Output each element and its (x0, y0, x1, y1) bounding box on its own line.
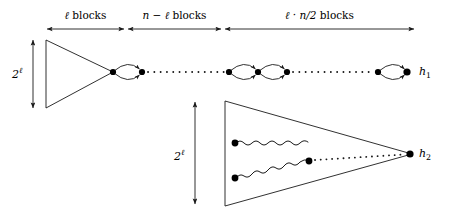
axis-segment-2-word: blocks (172, 9, 206, 21)
lower-triangle-apex-node-h2 (406, 150, 413, 157)
height-lower-label: 2ℓ (174, 149, 184, 162)
height-lower-base: 2 (174, 150, 181, 163)
chain-node (375, 69, 381, 75)
height-upper-base: 2 (12, 68, 19, 81)
axis-segment-1-word: blocks (72, 9, 106, 21)
figure-canvas: ℓ blocks n − ℓ blocks ℓ · n/2 blocks 2ℓ … (0, 0, 451, 224)
upper-triangle-shape (46, 40, 113, 108)
upper-triangle-group (46, 40, 113, 108)
axis-segment-2-label: n − ℓ blocks (127, 10, 222, 21)
wavy-path-nodes (232, 140, 414, 182)
axis-segment-2-var: n − ℓ (143, 9, 170, 21)
chain-node (284, 69, 290, 75)
wavy-source-node-top (232, 140, 239, 147)
wavy-path-bottom (236, 160, 308, 178)
bigon-arc-lower-3 (259, 73, 285, 80)
output-h1-label: h1 (419, 66, 431, 80)
chain-node-h1 (403, 68, 410, 75)
bigon-arc-lower-4 (379, 73, 405, 80)
output-h2-subscript: 2 (426, 153, 431, 162)
height-upper-exponent: ℓ (19, 66, 22, 75)
axis-segment-3-word: blocks (320, 9, 354, 21)
diagram-svg (0, 0, 451, 224)
axis-segment-1-var: ℓ (65, 9, 69, 21)
output-h2-label: h2 (419, 148, 431, 162)
bigon-arc-upper-4 (379, 64, 405, 71)
bigon-arc-upper-2 (230, 64, 256, 71)
output-h1-subscript: 1 (426, 71, 431, 80)
wavy-join-node (306, 158, 313, 165)
chain-node (139, 69, 145, 75)
axis-segment-3-label: ℓ · n/2 blocks (224, 10, 415, 21)
chain-node (255, 69, 261, 75)
lower-triangle-shape (225, 101, 412, 206)
bigon-arc-upper-3 (259, 64, 285, 71)
wavy-source-node-bottom (232, 175, 239, 182)
height-upper-label: 2ℓ (12, 67, 22, 80)
axis-segment-3-var: ℓ · n/2 (285, 9, 316, 21)
bigon-arc-lower-1 (114, 73, 140, 80)
wavy-dotted-to-apex (315, 155, 404, 161)
bigon-arc-upper-1 (114, 64, 140, 71)
lower-triangle-group (225, 101, 412, 206)
wavy-path-top (236, 141, 308, 145)
bigon-arc-lower-2 (230, 73, 256, 80)
height-lower-exponent: ℓ (181, 148, 184, 157)
wavy-paths-group (236, 141, 404, 178)
axis-segment-1-label: ℓ blocks (46, 10, 125, 21)
chain-node (226, 69, 232, 75)
chain-node (110, 69, 116, 75)
